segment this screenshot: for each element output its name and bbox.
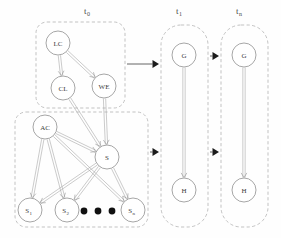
slice-label-t0: t0 <box>84 6 90 17</box>
node-S1[interactable]: S1 <box>18 198 42 222</box>
ellipsis-layer <box>81 208 116 215</box>
node-S2[interactable]: S2 <box>55 198 79 222</box>
node-Sn[interactable]: Sn <box>121 198 145 222</box>
edge-WE-to-S <box>103 98 109 144</box>
node-G1[interactable]: G <box>172 43 196 67</box>
edge-AC-to-S1 <box>30 139 44 198</box>
ellipsis-dot <box>109 208 116 215</box>
node-label-G2: G <box>241 52 246 60</box>
node-label-H1: H <box>181 187 186 195</box>
slice-subscript-t0: 0 <box>87 11 90 17</box>
edge-AC-to-S <box>56 131 96 152</box>
edge-G1-to-H1 <box>181 68 187 178</box>
node-WE[interactable]: WE <box>92 74 116 98</box>
slice-subscript-tn: n <box>239 11 242 17</box>
slice-label-t1: t1 <box>176 6 182 17</box>
node-H2[interactable]: H <box>232 178 256 202</box>
node-label-G1: G <box>181 52 186 60</box>
nodes-layer: LCCLWEACSS1S2SnGHGH <box>18 31 256 222</box>
edge-LC-to-CL <box>58 55 64 75</box>
node-G2[interactable]: G <box>232 43 256 67</box>
edge-G2-to-H2 <box>241 68 247 178</box>
diagram-canvas: LCCLWEACSS1S2SnGHGH t0t1tn <box>0 0 281 238</box>
edge-AC-to-S2 <box>47 139 65 198</box>
node-label-AC: AC <box>40 124 50 132</box>
ellipsis-dot <box>81 208 88 215</box>
node-label-WE: WE <box>99 83 110 91</box>
edges-layer <box>30 51 247 204</box>
node-H1[interactable]: H <box>172 178 196 202</box>
transition-arrow-t1-to-tn-h <box>210 148 219 156</box>
node-label-LC: LC <box>54 40 63 48</box>
ellipsis-dot <box>95 208 102 215</box>
node-label-CL: CL <box>59 85 68 93</box>
dbn-diagram: LCCLWEACSS1S2SnGHGH t0t1tn <box>0 0 281 238</box>
node-CL[interactable]: CL <box>51 76 75 100</box>
edge-LC-to-WE <box>66 51 95 79</box>
transition-arrow-t0-lower-to-t1-h <box>150 148 159 156</box>
slice-label-tn: tn <box>236 6 242 17</box>
node-S[interactable]: S <box>95 145 119 169</box>
slice-labels-layer: t0t1tn <box>84 6 242 17</box>
node-label-H2: H <box>241 187 246 195</box>
edge-S-to-Sn <box>111 168 128 200</box>
slice-subscript-t1: 1 <box>179 11 182 17</box>
edge-S-to-S2 <box>74 166 101 200</box>
transition-arrows-layer <box>127 52 219 156</box>
transition-arrow-t0-upper-to-t1-g <box>127 60 159 68</box>
transition-arrow-t1-to-tn-g <box>210 52 219 60</box>
node-label-S: S <box>105 154 109 162</box>
node-AC[interactable]: AC <box>33 115 57 139</box>
node-LC[interactable]: LC <box>46 31 70 55</box>
